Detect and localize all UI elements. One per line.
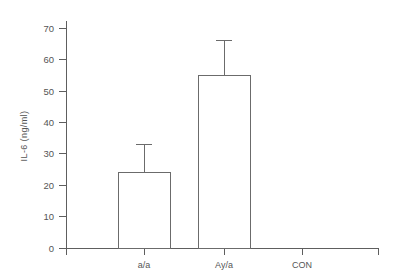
x-tick-label-ay-a: Ay/a <box>215 260 233 270</box>
bar-ay-a <box>198 75 250 248</box>
x-axis-ticks <box>66 248 378 255</box>
y-tick-label: 0 <box>49 243 54 254</box>
y-tick-label: 50 <box>43 86 54 97</box>
bar-a-a <box>118 173 170 248</box>
y-tick-label: 60 <box>43 54 54 65</box>
y-tick-label: 40 <box>43 117 54 128</box>
il6-bar-chart: IL-6 (ng/ml) 0 10 20 30 40 50 60 70 <box>0 0 397 278</box>
x-axis-tick-labels: a/a Ay/a CON <box>138 260 312 270</box>
y-axis-tick-labels: 0 10 20 30 40 50 60 70 <box>43 23 54 254</box>
chart-container: IL-6 (ng/ml) 0 10 20 30 40 50 60 70 <box>0 0 397 278</box>
y-tick-label: 30 <box>43 148 54 159</box>
y-tick-label: 10 <box>43 211 54 222</box>
bar-series <box>118 75 250 248</box>
y-axis-title: IL-6 (ng/ml) <box>19 111 29 162</box>
y-tick-label: 70 <box>43 23 54 34</box>
x-tick-label-con: CON <box>292 260 312 270</box>
x-tick-label-a-a: a/a <box>138 260 151 270</box>
y-tick-label: 20 <box>43 180 54 191</box>
y-axis-ticks <box>59 28 66 248</box>
